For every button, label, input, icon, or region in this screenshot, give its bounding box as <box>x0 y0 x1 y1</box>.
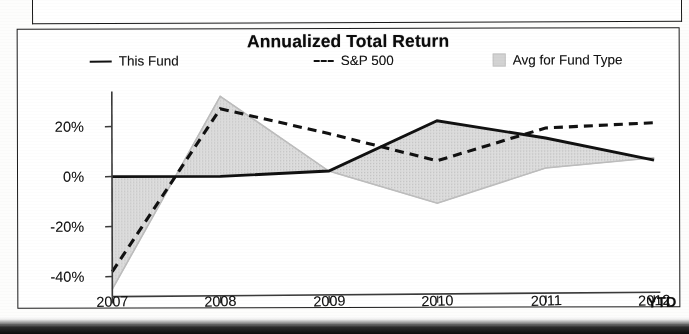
line-avg-for-fund-type <box>112 95 655 289</box>
chart-svg <box>94 90 667 296</box>
plot-area <box>94 90 667 296</box>
y-axis-labels: 20% 0% -20% -40% <box>18 92 93 297</box>
y-tick-label-0: 0% <box>63 169 84 185</box>
gray-area-swatch-icon <box>493 54 506 67</box>
x-tick-label-2009: 2009 <box>313 293 346 310</box>
area-avg-for-fund-type <box>112 95 655 289</box>
x-axis-ytd-label: YTD <box>647 294 676 311</box>
solid-line-swatch-icon <box>90 60 112 62</box>
y-tick-label-neg40: -40% <box>50 269 84 285</box>
chart-panel: Annualized Total Return This Fund S&P 50… <box>17 27 681 309</box>
x-tick-label-2011: 2011 <box>530 292 562 309</box>
legend-item-sp500: S&P 500 <box>314 53 394 68</box>
chart-axes <box>112 90 661 296</box>
scan-bottom-shadow <box>0 316 689 334</box>
y-tick-label-20: 20% <box>55 119 84 135</box>
chart-inner: Annualized Total Return This Fund S&P 50… <box>18 28 680 308</box>
chart-legend: This Fund S&P 500 Avg for Fund Type <box>18 52 679 76</box>
panel-above-chart <box>32 0 682 24</box>
x-tick-label-2010: 2010 <box>421 292 454 309</box>
chart-title: Annualized Total Return <box>18 30 679 53</box>
y-tick-label-neg20: -20% <box>50 219 84 235</box>
scanned-page: Annualized Total Return This Fund S&P 50… <box>0 0 689 334</box>
x-tick-label-2007: 2007 <box>96 293 129 310</box>
legend-item-this-fund: This Fund <box>90 53 179 68</box>
y-axis-line <box>112 92 113 297</box>
dashed-line-swatch-icon <box>314 60 334 62</box>
line-sp500 <box>112 108 654 272</box>
legend-label-sp500: S&P 500 <box>341 53 394 68</box>
legend-label-avg-fund-type: Avg for Fund Type <box>513 52 623 67</box>
legend-label-this-fund: This Fund <box>119 53 179 68</box>
x-tick-label-2008: 2008 <box>204 293 237 310</box>
legend-item-avg-fund-type: Avg for Fund Type <box>493 52 623 67</box>
